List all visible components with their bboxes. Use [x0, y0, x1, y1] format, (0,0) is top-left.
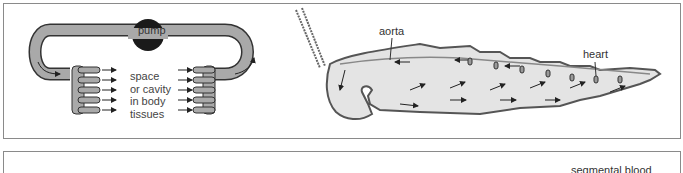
tissue-label-line: space [130, 70, 171, 83]
segmental-blood-label: segmental blood [571, 164, 652, 173]
open-circulation-schematic [0, 0, 683, 173]
tissue-label-line: in body [130, 95, 171, 108]
tissue-label-line: or cavity [130, 83, 171, 96]
pump-label: pump [138, 24, 166, 36]
heart-label: heart [583, 48, 608, 60]
tissue-label: space or cavity in body tissues [130, 70, 171, 120]
tissue-label-line: tissues [130, 108, 171, 121]
aorta-label: aorta [379, 25, 404, 37]
insect-body-illustration [296, 8, 660, 119]
